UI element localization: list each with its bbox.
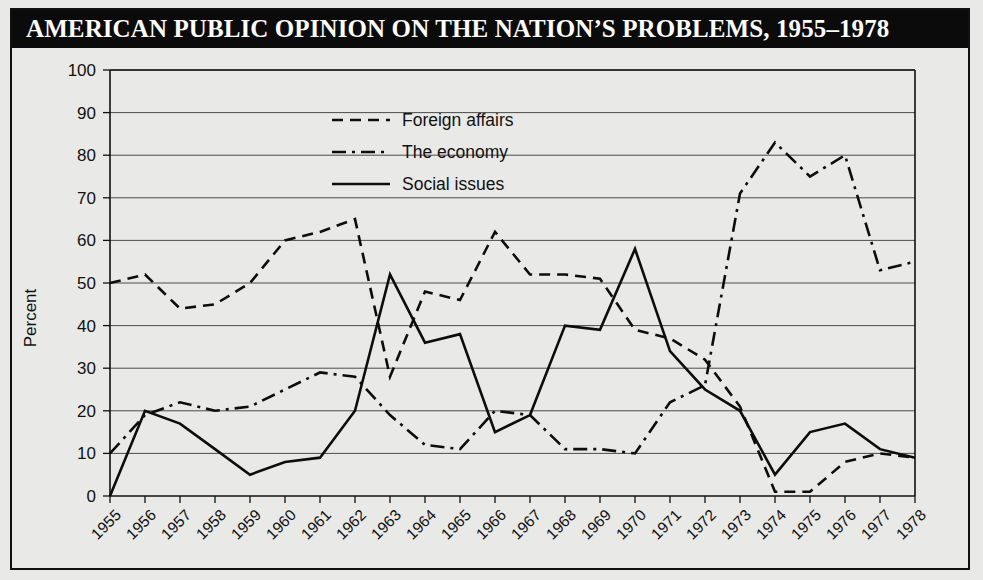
x-tick-label: 1964 <box>403 506 440 543</box>
x-tick-label: 1973 <box>718 506 754 542</box>
y-tick-label: 100 <box>68 61 96 80</box>
title-band: AMERICAN PUBLIC OPINION ON THE NATION’S … <box>12 10 968 48</box>
legend-label-social-issues: Social issues <box>402 174 504 194</box>
legend-label-the-economy: The economy <box>402 142 508 162</box>
x-tick-label: 1956 <box>123 506 159 542</box>
x-tick-label: 1962 <box>333 506 369 542</box>
y-tick-label: 30 <box>77 359 96 378</box>
y-tick-label: 0 <box>87 487 96 506</box>
x-tick-label: 1960 <box>263 506 300 543</box>
x-tick-label: 1959 <box>228 506 264 542</box>
y-tick-label: 40 <box>77 317 96 336</box>
x-tick-label: 1958 <box>193 506 229 542</box>
x-tick-label: 1966 <box>473 506 509 542</box>
x-tick-label: 1968 <box>543 506 579 542</box>
x-tick-label: 1970 <box>613 506 650 543</box>
y-axis-title: Percent <box>21 288 40 347</box>
y-tick-label: 10 <box>77 444 96 463</box>
x-tick-label: 1965 <box>438 506 474 542</box>
x-tick-label: 1963 <box>368 506 404 542</box>
x-tick-label: 1967 <box>508 506 544 542</box>
x-tick-label: 1957 <box>158 506 194 542</box>
line-chart: 0102030405060708090100 19551956195719581… <box>12 48 968 568</box>
x-tick-label: 1955 <box>88 506 124 542</box>
series-line-the-economy <box>110 142 915 453</box>
x-tick-label: 1974 <box>753 506 790 543</box>
y-tick-label: 70 <box>77 189 96 208</box>
page-title: AMERICAN PUBLIC OPINION ON THE NATION’S … <box>26 15 889 43</box>
series-line-social-issues <box>110 249 915 496</box>
chart-legend: Foreign affairsThe economySocial issues <box>332 110 514 194</box>
y-tick-label: 60 <box>77 231 96 250</box>
y-tick-label: 80 <box>77 146 96 165</box>
y-axis-ticks: 0102030405060708090100 <box>68 61 110 506</box>
x-tick-label: 1978 <box>893 506 929 542</box>
y-tick-label: 50 <box>77 274 96 293</box>
y-tick-label: 20 <box>77 402 96 421</box>
x-tick-label: 1961 <box>298 506 334 542</box>
data-series <box>110 142 915 496</box>
x-tick-label: 1971 <box>648 506 684 542</box>
x-tick-label: 1976 <box>823 506 859 542</box>
x-axis-ticks: 1955195619571958195919601961196219631964… <box>88 496 929 543</box>
chart-figure: AMERICAN PUBLIC OPINION ON THE NATION’S … <box>10 8 970 570</box>
x-tick-label: 1969 <box>578 506 614 542</box>
plot-area: 0102030405060708090100 19551956195719581… <box>12 48 968 572</box>
legend-label-foreign-affairs: Foreign affairs <box>402 110 514 130</box>
x-tick-label: 1972 <box>683 506 719 542</box>
y-tick-label: 90 <box>77 104 96 123</box>
x-tick-label: 1977 <box>858 506 894 542</box>
x-tick-label: 1975 <box>788 506 824 542</box>
